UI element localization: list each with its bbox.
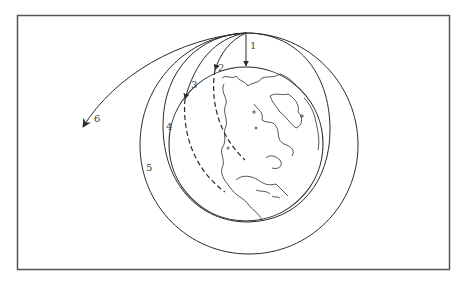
- newton-cannonball-diagram: 1 2 3 4 5 6: [0, 0, 467, 281]
- label-4: 4: [166, 121, 172, 132]
- earth-globe: [169, 67, 323, 221]
- label-6: 6: [94, 113, 100, 124]
- label-1: 1: [250, 40, 256, 51]
- label-2: 2: [218, 62, 224, 73]
- label-3: 3: [191, 79, 197, 90]
- label-5: 5: [146, 162, 152, 173]
